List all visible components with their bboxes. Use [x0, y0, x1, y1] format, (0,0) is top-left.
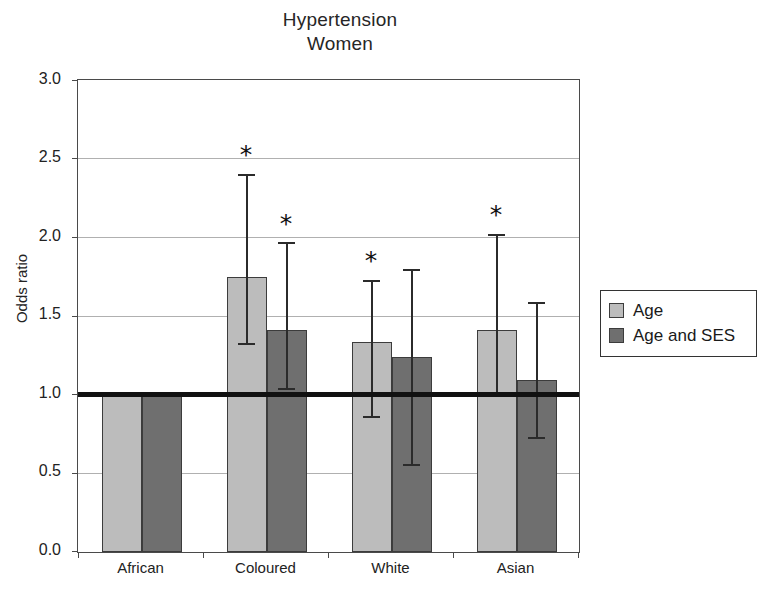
- y-tick-label-2.0: 2.0: [17, 228, 61, 244]
- x-tick-mark-3: [453, 552, 454, 558]
- errorbar-coloured-age-and-ses: [286, 242, 288, 389]
- y-tick-label-2.5: 2.5: [17, 149, 61, 165]
- x-tick-label-coloured: Coloured: [203, 560, 328, 575]
- legend-label-age-and-ses: Age and SES: [633, 326, 735, 346]
- significance-star-asian-age: *: [483, 202, 509, 227]
- y-tick-label-1.0: 1.0: [17, 385, 61, 401]
- x-tick-label-asian: Asian: [453, 560, 578, 575]
- errorbar-cap-white-age-and-ses-high: [403, 269, 420, 271]
- significance-star-coloured-age: *: [233, 142, 259, 167]
- gridline-2.5: [78, 158, 579, 159]
- legend-item-age-and-ses: Age and SES: [609, 323, 748, 348]
- x-tick-label-white: White: [328, 560, 453, 575]
- y-tick-label-0.5: 0.5: [17, 463, 61, 479]
- legend-item-age: Age: [609, 298, 748, 323]
- errorbar-cap-coloured-age-and-ses-low: [278, 388, 295, 390]
- chart-title-line-1: Hypertension: [140, 8, 540, 32]
- chart-legend: Age Age and SES: [600, 290, 757, 357]
- y-tick-mark-2.5: [72, 158, 78, 159]
- y-tick-mark-0.5: [72, 473, 78, 474]
- errorbar-cap-coloured-age-low: [238, 343, 255, 345]
- chart-title: Hypertension Women: [140, 8, 540, 56]
- significance-star-white-age: *: [358, 248, 384, 273]
- gridline-1.5: [78, 316, 579, 317]
- errorbar-cap-coloured-age-high: [238, 174, 255, 176]
- x-tick-mark-2: [328, 552, 329, 558]
- x-tick-mark-4: [578, 552, 579, 558]
- legend-swatch-age-and-ses-icon: [609, 328, 624, 343]
- legend-label-age: Age: [633, 301, 663, 321]
- y-tick-label-3.0: 3.0: [17, 71, 61, 87]
- y-tick-label-0.0: 0.0: [17, 542, 61, 558]
- errorbar-cap-white-age-low: [363, 416, 380, 418]
- y-tick-mark-3.0: [72, 80, 78, 81]
- errorbar-asian-age: [496, 234, 498, 394]
- errorbar-cap-asian-age-and-ses-low: [528, 437, 545, 439]
- errorbar-asian-age-and-ses: [536, 302, 538, 437]
- gridline-2.0: [78, 237, 579, 238]
- x-tick-label-african: African: [78, 560, 203, 575]
- legend-swatch-age-icon: [609, 303, 624, 318]
- y-tick-label-1.5: 1.5: [17, 306, 61, 322]
- errorbar-cap-asian-age-high: [488, 234, 505, 236]
- significance-star-coloured-age-and-ses: *: [273, 211, 299, 236]
- reference-line-1.0: [78, 392, 579, 397]
- y-axis-label: Odds ratio: [13, 234, 30, 344]
- chart-title-line-2: Women: [140, 32, 540, 56]
- errorbar-cap-white-age-and-ses-low: [403, 464, 420, 466]
- x-tick-mark-0: [78, 552, 79, 558]
- y-tick-mark-2.0: [72, 237, 78, 238]
- chart-figure: Hypertension Women Odds ratio 3.0 2.5 2.…: [0, 0, 774, 599]
- errorbar-cap-white-age-high: [363, 280, 380, 282]
- errorbar-cap-coloured-age-and-ses-high: [278, 242, 295, 244]
- y-tick-mark-1.5: [72, 316, 78, 317]
- x-tick-mark-1: [203, 552, 204, 558]
- errorbar-cap-asian-age-and-ses-high: [528, 302, 545, 304]
- errorbar-white-age-and-ses: [411, 269, 413, 465]
- bar-african-age: [102, 394, 142, 552]
- errorbar-coloured-age: [246, 174, 248, 344]
- bar-african-age-and-ses: [142, 394, 182, 552]
- plot-area: * * * *: [77, 79, 580, 553]
